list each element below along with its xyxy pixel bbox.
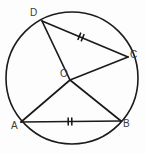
vertex-label-a: A [11, 121, 18, 131]
geometry-figure: D C O A B [0, 0, 145, 154]
segment-ob [70, 80, 121, 121]
segment-ab [21, 121, 121, 122]
vertex-label-c: C [130, 50, 137, 60]
vertex-label-b: B [123, 119, 130, 129]
vertex-label-d: D [30, 8, 37, 18]
geometry-canvas [0, 0, 145, 154]
segment-oc [70, 57, 128, 80]
vertex-label-o: O [60, 69, 68, 79]
segment-dc [42, 21, 128, 57]
segment-oa [21, 80, 70, 122]
